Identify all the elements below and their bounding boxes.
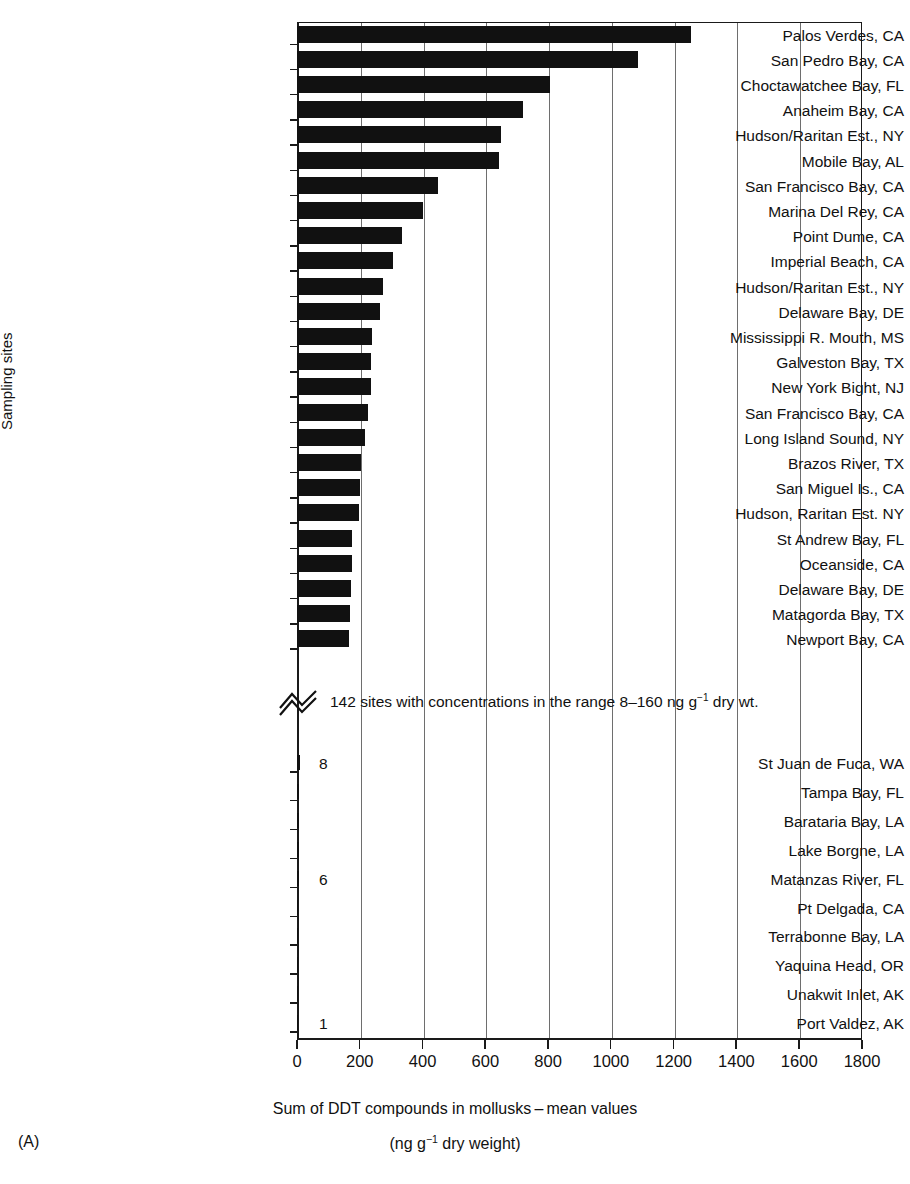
category-label: Anaheim Bay, CA [610, 103, 910, 119]
category-label: Oceanside, CA [610, 557, 910, 573]
category-label: Imperial Beach, CA [610, 254, 910, 270]
category-label: Lake Borgne, LA [610, 843, 910, 859]
x-axis-tick-label: 1600 [781, 1052, 818, 1071]
y-axis-tick [290, 94, 298, 96]
x-axis-tick [798, 1040, 800, 1049]
bar [297, 871, 299, 886]
category-label: Tampa Bay, FL [610, 785, 910, 801]
gridline [486, 23, 487, 1038]
y-axis-tick [290, 396, 298, 398]
bar [297, 986, 298, 1001]
y-axis-tick [290, 1031, 298, 1033]
y-axis-tick [290, 800, 298, 802]
gridline [424, 23, 425, 1038]
bar [297, 1015, 298, 1030]
y-axis-tick [290, 916, 298, 918]
bar [297, 530, 352, 547]
bar [297, 152, 499, 169]
x-axis-tick [422, 1040, 424, 1049]
y-axis-tick [290, 858, 298, 860]
x-axis-tick [735, 1040, 737, 1049]
bar [297, 101, 523, 118]
bar [297, 227, 402, 244]
category-label: Pt Delgada, CA [610, 901, 910, 917]
x-axis-tick-label: 1800 [844, 1052, 881, 1071]
y-axis-tick [290, 522, 298, 524]
y-axis-tick [290, 548, 298, 550]
category-label: New York Bight, NJ [610, 380, 910, 396]
bar [297, 303, 380, 320]
y-axis-tick [290, 623, 298, 625]
category-label: San Francisco Bay, CA [610, 406, 910, 422]
x-axis-tick-label: 800 [534, 1052, 562, 1071]
y-axis-title: Sampling sites [0, 230, 15, 430]
y-axis-tick [290, 887, 298, 889]
y-axis-tick [290, 829, 298, 831]
bar [297, 76, 550, 93]
figure-panel-a: Sampling sites Palos Verdes, CASan Pedro… [0, 0, 910, 1184]
y-axis-tick [290, 296, 298, 298]
y-axis-tick [290, 447, 298, 449]
category-label: San Miguel Is., CA [610, 481, 910, 497]
category-label: Hudson/Raritan Est., NY [610, 128, 910, 144]
category-label: Hudson, Raritan Est. NY [610, 506, 910, 522]
y-axis-tick [290, 170, 298, 172]
y-axis-tick [290, 371, 298, 373]
category-label: St Juan de Fuca, WA [610, 756, 910, 772]
bar [297, 755, 300, 770]
y-axis-tick [290, 497, 298, 499]
bar [297, 479, 360, 496]
category-label: St Andrew Bay, FL [610, 532, 910, 548]
category-label: Point Dume, CA [610, 229, 910, 245]
x-axis-tick [547, 1040, 549, 1049]
category-label: Long Island Sound, NY [610, 431, 910, 447]
bar [297, 580, 351, 597]
bar [297, 378, 371, 395]
x-axis-title-line2: (ng g−1 dry weight) [0, 1133, 910, 1153]
bar [297, 842, 299, 857]
y-axis-tick [290, 944, 298, 946]
bar [297, 784, 299, 799]
bar [297, 252, 393, 269]
y-axis-tick [290, 472, 298, 474]
category-label: Port Valdez, AK [610, 1016, 910, 1032]
bar [297, 51, 638, 68]
bar [297, 928, 298, 943]
y-axis-tick [290, 598, 298, 600]
y-axis-tick [290, 44, 298, 46]
x-axis-tick [861, 1040, 863, 1049]
category-label: Delaware Bay, DE [610, 305, 910, 321]
category-label: Terrabonne Bay, LA [610, 929, 910, 945]
bar [297, 404, 368, 421]
category-label: Delaware Bay, DE [610, 582, 910, 598]
category-label: Mobile Bay, AL [610, 154, 910, 170]
category-label: Mississippi R. Mouth, MS [610, 330, 910, 346]
category-label: Marina Del Rey, CA [610, 204, 910, 220]
bar-value-label: 8 [319, 756, 328, 772]
y-axis-tick [290, 771, 298, 773]
x-axis-tick [359, 1040, 361, 1049]
bar [297, 813, 299, 828]
x-axis-tick-label: 600 [472, 1052, 500, 1071]
bar [297, 177, 438, 194]
bar [297, 900, 298, 915]
x-axis-tick [673, 1040, 675, 1049]
y-axis-tick [290, 422, 298, 424]
category-label: Choctawatchee Bay, FL [610, 78, 910, 94]
x-axis-tick [296, 1040, 298, 1049]
category-label: Hudson/Raritan Est., NY [610, 280, 910, 296]
category-label: Brazos River, TX [610, 456, 910, 472]
bar [297, 26, 691, 43]
category-label: Yaquina Head, OR [610, 958, 910, 974]
bar [297, 328, 372, 345]
gridline [549, 23, 550, 1038]
category-label: Unakwit Inlet, AK [610, 987, 910, 1003]
y-axis-tick [290, 270, 298, 272]
gridline [361, 23, 362, 1038]
bar [297, 429, 365, 446]
category-label: Galveston Bay, TX [610, 355, 910, 371]
axis-break-note: 142 sites with concentrations in the ran… [330, 692, 758, 711]
bar [297, 555, 352, 572]
y-axis-tick [290, 573, 298, 575]
y-axis-tick [290, 321, 298, 323]
